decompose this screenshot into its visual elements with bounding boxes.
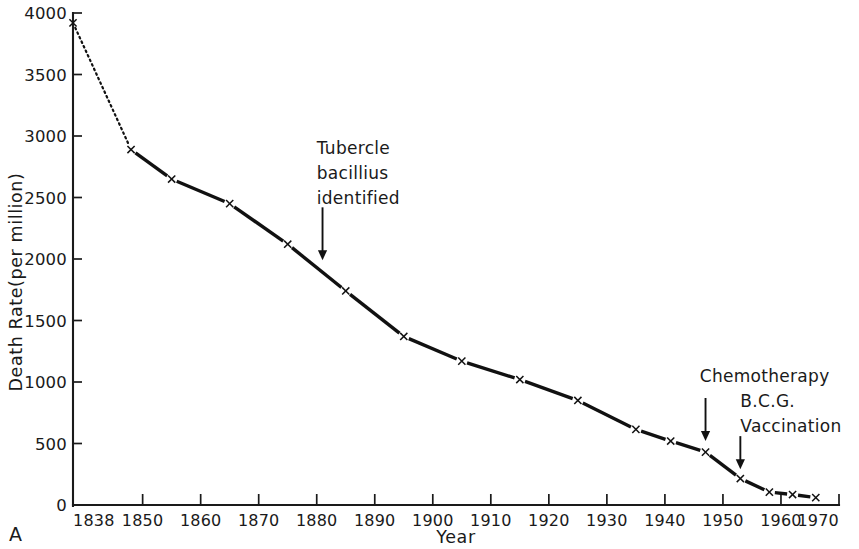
y-tick-label: 1500 [24,312,67,331]
data-point-marker [702,449,709,456]
data-segment-1848-1855 [135,153,167,176]
data-line-group [75,28,810,497]
figure-panel: 05001000150020002500300035004000 1838185… [0,0,859,549]
data-segment-1941-1947 [676,443,700,451]
x-tick-label: 1870 [238,511,280,530]
x-tick-label: 1950 [702,511,744,530]
x-tick-label: 1850 [122,511,164,530]
x-tick-label: 1838 [73,511,115,530]
data-point-marker [766,488,773,495]
data-segment-1838-1848 [75,28,128,145]
data-marker-group [69,19,819,501]
x-tick-label: 1960 [760,511,802,530]
data-segment-1915-1925 [525,381,573,398]
y-tick-label: 4000 [24,4,67,23]
annotation-text-line: Tubercle [316,138,390,158]
x-tick-label: 1860 [180,511,222,530]
annotation-arrow-head [701,431,710,441]
annotation-text-line: identified [317,188,400,208]
data-point-marker [812,494,819,501]
y-axis-title: Death Rate(per million) [6,173,26,392]
data-point-marker [168,175,175,182]
annotation-arrow-head [318,250,327,260]
y-tick-label: 2500 [24,189,67,208]
tuberculosis-death-rate-chart: 05001000150020002500300035004000 1838185… [0,0,859,549]
data-point-marker [789,491,796,498]
x-axis-title: Year [435,527,476,547]
y-tick-label: 3500 [24,66,67,85]
data-segment-1962-1966 [798,495,810,497]
data-segment-1855-1865 [177,181,225,201]
data-point-marker [632,426,639,433]
data-point-marker [574,397,581,404]
x-tick-label: 1910 [470,511,512,530]
data-segment-1947-1953 [710,455,736,475]
data-point-marker [226,200,233,207]
data-segment-1865-1875 [234,207,283,241]
y-axis: 05001000150020002500300035004000 [24,4,82,515]
x-tick-group [73,494,839,505]
annotation-text-line: Chemotherapy [700,366,830,386]
y-tick-label: 3000 [24,127,67,146]
y-tick-label: 1000 [24,373,67,392]
annotation-tubercle-bacillius: Tuberclebacilliusidentified [316,138,400,260]
data-segment-1895-1905 [409,339,457,359]
data-segment-1875-1885 [292,248,341,288]
x-tick-label: 1890 [354,511,396,530]
data-segment-1953-1958 [745,481,764,490]
x-tick-label: 1970 [797,511,839,530]
x-tick-label: 1880 [296,511,338,530]
data-segment-1958-1962 [775,493,787,494]
x-tick-label: 1920 [528,511,570,530]
data-segment-1905-1915 [467,363,515,378]
data-point-marker [284,241,291,248]
data-segment-1885-1895 [350,294,399,333]
y-tick-label-group: 05001000150020002500300035004000 [24,4,67,515]
annotation-text-line: bacillius [317,163,389,183]
annotation-bcg-vaccination: B.C.G.Vaccination [736,391,842,470]
annotation-text-line: Vaccination [740,416,841,436]
y-tick-label: 500 [35,435,67,454]
data-point-marker [127,146,134,153]
annotation-arrow-head [736,459,745,469]
data-segment-1925-1935 [583,403,631,427]
annotation-text-line: B.C.G. [740,391,795,411]
data-point-marker [458,357,465,364]
y-tick-label: 0 [56,496,67,515]
x-tick-label: 1930 [586,511,628,530]
data-point-marker [516,376,523,383]
data-segment-1935-1941 [641,431,665,439]
annotation-group: TuberclebacilliusidentifiedChemotherapyB… [316,138,842,469]
y-tick-group [73,13,82,505]
data-point-marker [737,475,744,482]
x-axis: 1838185018601870188018901900191019201930… [73,494,839,530]
x-tick-label: 1940 [644,511,686,530]
data-point-marker [342,287,349,294]
panel-label: A [9,523,22,545]
data-point-marker [667,437,674,444]
data-point-marker [400,333,407,340]
y-tick-label: 2000 [24,250,67,269]
